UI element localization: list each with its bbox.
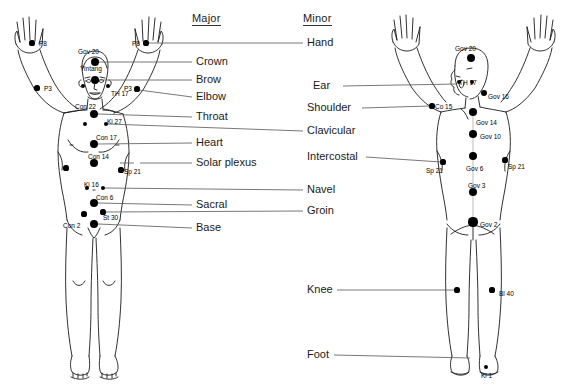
leader-heart — [98, 143, 192, 144]
acupoint-label-con22: Con 22 — [75, 103, 96, 110]
acupoint-dot-gov16 — [481, 90, 487, 96]
acupuncture-chakra-diagram: Major Minor Crown Brow Elbow Throat Hear… — [0, 0, 578, 389]
acupoint-dot-p3-right — [134, 86, 139, 91]
minor-column-header: Minor — [303, 12, 332, 24]
acupoint-label-ki27-r: Ki 27 — [107, 118, 122, 125]
acupoint-dot-co15 — [429, 103, 434, 108]
acupoint-label-con17: Con 17 — [96, 134, 117, 141]
minor-label-shoulder: Shoulder — [307, 101, 351, 113]
major-label-sacral: Sacral — [196, 198, 227, 210]
acupoint-label-sp21-br: Sp 21 — [508, 163, 525, 170]
minor-label-groin: Groin — [307, 204, 334, 216]
leader-ear — [343, 84, 457, 86]
minor-label-intercostal: Intercostal — [307, 150, 358, 162]
major-label-heart: Heart — [196, 136, 223, 148]
acupoint-dot-p8-left — [29, 40, 34, 45]
major-column-header: Major — [192, 12, 221, 24]
major-label-crown: Crown — [196, 55, 228, 67]
minor-label-ear: Ear — [313, 79, 330, 91]
major-label-throat: Throat — [196, 110, 228, 122]
acupoint-label-con6: Con 6 — [96, 194, 113, 201]
leader-clavicular — [108, 124, 303, 131]
acupoint-label-yintang: Yintang — [80, 65, 102, 72]
acupoint-label-p8-right: P8 — [132, 40, 140, 47]
acupoint-dot-sp21-br — [502, 157, 507, 162]
major-label-solar-plexus: Solar plexus — [196, 156, 257, 168]
acupoint-label-sp21-bl: Sp 21 — [426, 167, 443, 174]
acupoint-label-gov10: Gov 10 — [480, 133, 501, 140]
acupoint-label-gov2: Gov 2 — [480, 221, 497, 228]
acupoint-label-gov3: Gov 3 — [468, 182, 485, 189]
acupoint-label-gov20: Gov 20 — [78, 48, 99, 55]
leader-elbow — [139, 90, 192, 97]
acupoint-dot-p3-left — [34, 85, 39, 90]
leader-throat — [98, 114, 192, 117]
minor-label-clavicular: Clavicular — [307, 124, 355, 136]
acupoint-label-con2: Con 2 — [63, 222, 80, 229]
acupoint-label-gov14: Gov 14 — [476, 119, 497, 126]
acupoint-label-th17-r: TH 17 — [111, 90, 129, 97]
acupoint-label-gov6: Gov 6 — [466, 165, 483, 172]
major-label-base: Base — [196, 221, 221, 233]
acupoint-label-co15: Co 15 — [435, 103, 452, 110]
minor-label-knee: Knee — [307, 283, 333, 295]
acupoint-label-con14: Con 14 — [88, 153, 109, 160]
acupoint-label-gov20-b: Gov 20 — [455, 45, 476, 52]
acupoint-dot-p8-right — [143, 40, 148, 45]
leader-foot — [334, 355, 470, 358]
acupoint-dot-bl40 — [489, 287, 494, 292]
acupoint-dot-knee-l — [454, 287, 459, 292]
acupoint-label-sp21-r: Sp 21 — [124, 168, 141, 175]
leader-groin — [105, 211, 303, 212]
minor-label-navel: Navel — [307, 183, 335, 195]
acupoint-label-th17-br: TH 17 — [459, 79, 477, 86]
diagram-canvas — [0, 0, 578, 389]
acupoint-dot-sp21-r — [118, 167, 123, 172]
acupoint-label-ki1: Ki 1 — [481, 372, 492, 379]
leader-shoulder — [362, 106, 430, 108]
acupoint-label-st30-r: St 30 — [103, 214, 118, 221]
acupoint-dot-sp21-l — [63, 165, 68, 170]
acupoint-label-bl40: Bl 40 — [499, 290, 514, 297]
acupoint-dot-st30-l — [81, 211, 86, 216]
acupoint-label-p8-left: P8 — [39, 40, 47, 47]
leader-base — [98, 224, 192, 228]
acupoint-label-p3-left: P3 — [44, 85, 52, 92]
leader-intercostal — [366, 157, 441, 162]
major-label-brow: Brow — [196, 73, 221, 85]
minor-label-hand: Hand — [307, 36, 333, 48]
leader-navel — [105, 188, 303, 190]
acupoint-dot-gov2 — [468, 217, 477, 226]
acupoint-label-gov16: Gov 16 — [488, 93, 509, 100]
major-label-elbow: Elbow — [196, 90, 226, 102]
minor-label-foot: Foot — [307, 348, 329, 360]
leader-sacral — [98, 203, 192, 205]
acupoint-dot-sp21-bl — [440, 159, 445, 164]
acupoint-label-ki16-l: Ki 16 — [84, 181, 99, 188]
